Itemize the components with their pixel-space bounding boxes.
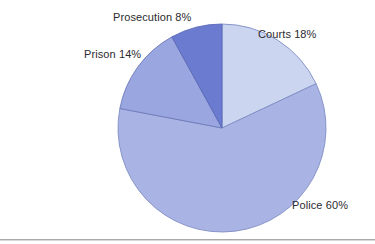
pie-label-courts: Courts 18% — [258, 28, 316, 41]
pie-label-prosecution: Prosecution 8% — [113, 11, 191, 24]
footer-divider-shadow — [0, 240, 375, 241]
pie-chart-figure: Prosecution 8% Courts 18% Prison 14% Pol… — [0, 0, 375, 244]
pie-label-police: Police 60% — [292, 199, 348, 212]
pie-label-prison: Prison 14% — [84, 48, 141, 61]
